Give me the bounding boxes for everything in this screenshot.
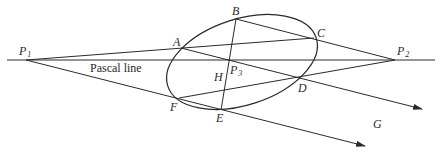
label-a: A (172, 35, 181, 49)
line-f-p2 (179, 60, 395, 98)
label-g: G (373, 117, 382, 131)
label-f: F (169, 100, 178, 114)
line-p1-c (26, 38, 314, 60)
label-e: E (215, 111, 224, 125)
label-h: H (213, 70, 224, 84)
label-p1: P1 (18, 44, 31, 59)
label-d: D (297, 81, 307, 95)
line-b-p2 (236, 19, 395, 60)
label-p2: P2 (396, 44, 409, 59)
pascal-line-caption: Pascal line (90, 61, 142, 75)
label-b: B (232, 4, 240, 18)
label-p3: P3 (229, 63, 242, 78)
line-p1-e-arrow (26, 60, 365, 146)
pascal-theorem-diagram: P1 P2 P3 A B C D E F G H Pascal line (0, 0, 441, 162)
label-c: C (317, 26, 326, 40)
